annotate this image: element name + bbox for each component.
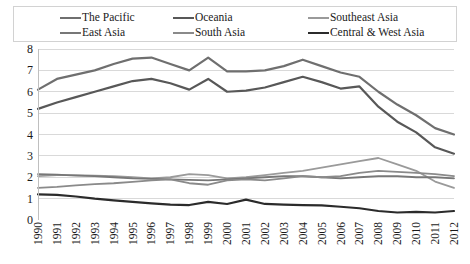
legend-label: South Asia bbox=[195, 26, 245, 39]
x-tick-label: 2001 bbox=[240, 222, 252, 245]
legend-line-swatch bbox=[173, 32, 194, 34]
x-tick-label: 2004 bbox=[297, 222, 309, 245]
x-tick-label: 2002 bbox=[259, 222, 271, 245]
x-tick-label: 1995 bbox=[127, 222, 139, 245]
plot-svg bbox=[13, 46, 457, 220]
x-tick-label: 2011 bbox=[429, 222, 441, 245]
x-tick-label: 1996 bbox=[145, 222, 157, 245]
line-chart-figure: The PacificOceaniaSoutheast AsiaEast Asi… bbox=[0, 0, 470, 264]
x-tick-label: 1994 bbox=[108, 222, 120, 245]
chart-legend: The PacificOceaniaSoutheast AsiaEast Asi… bbox=[13, 6, 457, 42]
legend-entry[interactable]: The Pacific bbox=[14, 11, 173, 24]
legend-label: East Asia bbox=[82, 26, 125, 39]
legend-row: The PacificOceaniaSoutheast Asia bbox=[14, 10, 456, 25]
x-tick-label: 2003 bbox=[278, 222, 290, 245]
x-tick-label: 1999 bbox=[202, 222, 214, 245]
legend-line-swatch bbox=[308, 17, 329, 19]
legend-line-swatch bbox=[308, 32, 329, 34]
x-tick-label: 2010 bbox=[410, 222, 422, 245]
series-line bbox=[38, 194, 454, 212]
x-tick-label: 1991 bbox=[51, 222, 63, 245]
legend-label: Central & West Asia bbox=[330, 26, 424, 39]
legend-label: Oceania bbox=[195, 11, 233, 24]
x-axis-tick-labels: 1990199119921993199419951996199719981999… bbox=[38, 222, 457, 264]
gridlines bbox=[38, 49, 454, 220]
legend-entry[interactable]: Southeast Asia bbox=[308, 11, 456, 24]
legend-line-swatch bbox=[173, 17, 194, 19]
legend-line-swatch bbox=[60, 17, 81, 19]
x-tick-label: 2007 bbox=[353, 222, 365, 245]
x-tick-label: 2009 bbox=[391, 222, 403, 245]
legend-entry[interactable]: South Asia bbox=[173, 26, 308, 39]
series-lines bbox=[38, 58, 454, 213]
x-tick-label: 2000 bbox=[221, 222, 233, 245]
x-tick-label: 2005 bbox=[316, 222, 328, 245]
legend-entry[interactable]: Central & West Asia bbox=[308, 26, 456, 39]
plot-area bbox=[13, 46, 457, 220]
series-line bbox=[38, 77, 454, 154]
legend-entry[interactable]: Oceania bbox=[173, 11, 308, 24]
legend-line-swatch bbox=[60, 32, 81, 34]
x-tick-label: 1990 bbox=[32, 222, 44, 245]
legend-label: Southeast Asia bbox=[330, 11, 398, 24]
x-tick-label: 2012 bbox=[448, 222, 460, 245]
x-tick-label: 1993 bbox=[89, 222, 101, 245]
x-tick-label: 2006 bbox=[335, 222, 347, 245]
x-tick-label: 2008 bbox=[372, 222, 384, 245]
x-tick-label: 1997 bbox=[164, 222, 176, 245]
legend-entry[interactable]: East Asia bbox=[14, 26, 173, 39]
x-tick-label: 1992 bbox=[70, 222, 82, 245]
legend-row: East AsiaSouth AsiaCentral & West Asia bbox=[14, 25, 456, 40]
x-tick-label: 1998 bbox=[183, 222, 195, 245]
series-line bbox=[38, 58, 454, 135]
legend-label: The Pacific bbox=[82, 11, 135, 24]
series-line bbox=[38, 171, 454, 188]
